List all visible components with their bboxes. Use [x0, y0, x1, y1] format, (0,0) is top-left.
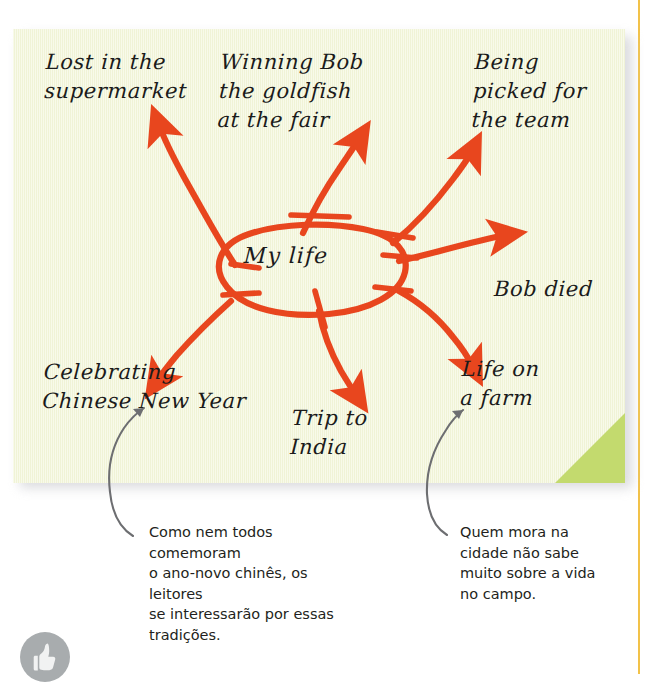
mindmap-label-goldfish: Winning Bob the goldfish at the fair — [217, 48, 365, 135]
mindmap-label-supermarket: Lost in the supermarket — [43, 48, 189, 106]
thumbs-up-badge — [20, 632, 70, 682]
mindmap-center-label: My life — [243, 243, 328, 268]
branch-team — [393, 151, 472, 243]
mindmap-center-ellipse — [219, 225, 406, 315]
page-margin-rule — [638, 0, 640, 674]
annotation-text-farm: Quem mora na cidade não sabe muito sobre… — [460, 522, 625, 604]
mindmap-label-team: Being picked for the team — [471, 48, 589, 135]
thumbs-up-icon — [20, 632, 70, 682]
annotation-text-chinese-new-year: Como nem todos comemoram o ano-novo chin… — [149, 522, 364, 645]
mindmap-label-chinese-new-year: Celebrating Chinese New Year — [41, 358, 248, 416]
mindmap-label-farm: Life on a farm — [459, 355, 540, 413]
branch-supermarket — [159, 125, 235, 265]
mindmap-label-bob-died: Bob died — [493, 275, 594, 304]
mindmap-label-india: Trip to India — [289, 404, 368, 462]
